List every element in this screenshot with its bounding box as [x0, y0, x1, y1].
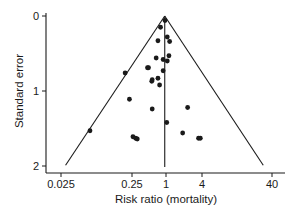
study-point: [157, 83, 162, 88]
x-tick-label: 1: [163, 178, 169, 190]
study-point: [165, 35, 170, 40]
data-points: [88, 18, 203, 141]
study-point: [154, 56, 159, 61]
study-point: [164, 120, 169, 125]
x-tick-label: 0.025: [47, 178, 75, 190]
study-point: [127, 97, 132, 102]
study-point: [185, 105, 190, 110]
funnel-lines: [66, 16, 264, 167]
study-point: [180, 131, 185, 136]
y-tick-label: 0: [33, 10, 39, 22]
study-point: [161, 68, 166, 73]
study-point: [163, 18, 168, 23]
funnel-right-boundary: [165, 16, 264, 165]
study-point: [146, 65, 151, 70]
study-point: [123, 71, 128, 76]
study-point: [167, 39, 172, 44]
study-point: [150, 107, 155, 112]
study-point: [165, 59, 170, 64]
y-tick-label: 2: [33, 160, 39, 172]
study-point: [156, 38, 161, 43]
x-tick-label: 4: [199, 178, 205, 190]
study-point: [161, 57, 166, 62]
study-point: [156, 76, 161, 81]
axis-labels: Risk ratio (mortality) Standard error: [13, 54, 217, 205]
funnel-left-boundary: [66, 16, 165, 165]
x-tick-label: 0.25: [121, 178, 142, 190]
x-axis-title: Risk ratio (mortality): [115, 193, 217, 205]
y-axis-title: Standard error: [13, 54, 25, 128]
study-point: [167, 53, 172, 58]
axes: 0120.0250.251440: [33, 10, 285, 190]
study-point: [198, 136, 203, 141]
x-tick-label: 40: [266, 178, 278, 190]
study-point: [88, 128, 93, 133]
study-point: [158, 25, 163, 30]
funnel-plot: 0120.0250.251440 Risk ratio (mortality) …: [0, 0, 300, 214]
study-point: [149, 79, 154, 84]
study-point: [135, 137, 140, 142]
y-tick-label: 1: [33, 85, 39, 97]
